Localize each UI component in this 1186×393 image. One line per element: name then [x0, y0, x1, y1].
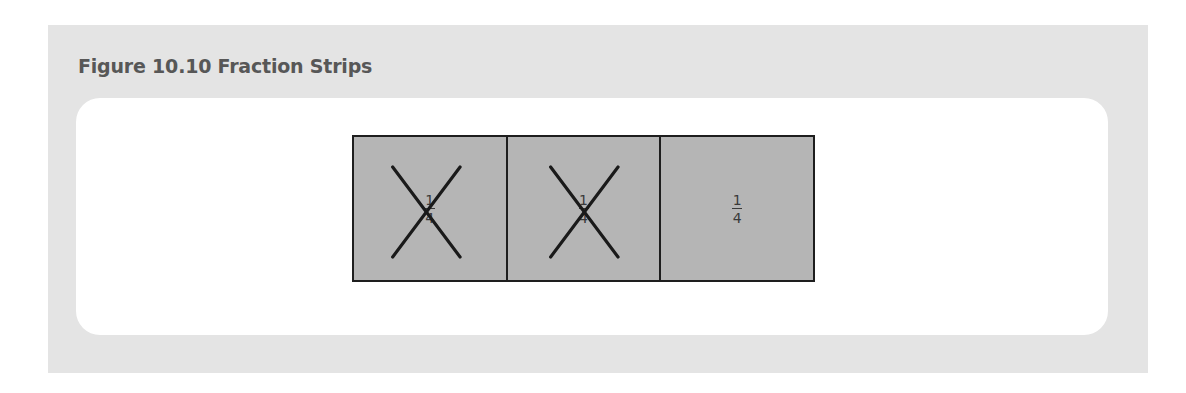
fraction-cell-3: 1 4	[661, 137, 813, 280]
fraction-bar	[732, 208, 742, 209]
fraction-label: 1 4	[579, 193, 589, 225]
fraction-cell-1-crossed: 1 4	[354, 137, 508, 280]
numerator: 1	[733, 193, 742, 207]
figure-card: 1 4 1 4	[76, 98, 1108, 335]
figure-panel: Figure 10.10 Fraction Strips 1 4 1 4	[48, 25, 1148, 373]
fraction-label: 1 4	[732, 193, 742, 225]
numerator: 1	[425, 193, 434, 207]
figure-title: Figure 10.10 Fraction Strips	[78, 55, 372, 77]
fraction-label: 1 4	[425, 193, 435, 225]
fraction-strip: 1 4 1 4	[352, 135, 815, 282]
fraction-bar	[425, 208, 435, 209]
denominator: 4	[425, 211, 434, 225]
denominator: 4	[579, 211, 588, 225]
denominator: 4	[733, 211, 742, 225]
numerator: 1	[579, 193, 588, 207]
fraction-bar	[579, 208, 589, 209]
fraction-cell-2-crossed: 1 4	[508, 137, 662, 280]
